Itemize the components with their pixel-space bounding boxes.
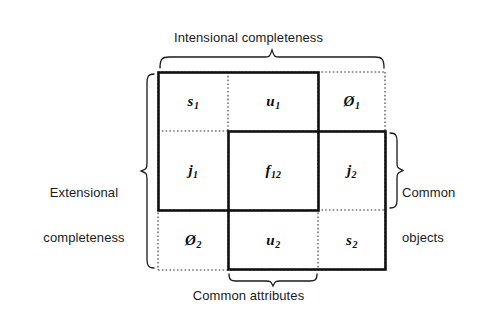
label-extensional-completeness: Extensional completeness [22, 155, 146, 275]
cell-r3c2-sub: 2 [275, 239, 280, 250]
cell-r1c1-sub: 1 [194, 100, 199, 111]
cell-r2c2-sub: 12 [271, 169, 281, 180]
top-brace [160, 50, 384, 68]
bottom-brace [229, 274, 317, 286]
cell-r2c2: f12 [228, 131, 318, 210]
cell-r1c1-base: s [188, 93, 194, 109]
cell-r2c2-base: f [266, 162, 271, 178]
cell-r3c2: u2 [228, 210, 318, 270]
cell-r3c1-sub: 2 [196, 239, 201, 250]
cell-r3c1-base: Ø [185, 232, 196, 248]
diagram-canvas: Intensional completeness Extensional com… [0, 0, 497, 324]
cell-r1c3: Ø1 [318, 72, 385, 131]
cell-r3c3-sub: 2 [352, 239, 357, 250]
cell-r2c3: j2 [318, 131, 385, 210]
cell-r3c2-base: u [266, 232, 274, 248]
label-common-objects: Common objects [402, 155, 497, 275]
cell-r2c1: j1 [158, 131, 228, 210]
cell-r3c1: Ø2 [158, 210, 228, 270]
cell-r1c2: u1 [228, 72, 318, 131]
cell-r2c1-sub: 1 [193, 169, 198, 180]
label-common-objects-line1: Common [402, 185, 497, 200]
label-common-attributes: Common attributes [0, 288, 497, 303]
cell-r1c3-base: Ø [344, 93, 355, 109]
label-extensional-line1: Extensional [22, 185, 146, 200]
cell-r1c2-base: u [266, 93, 274, 109]
label-extensional-line2: completeness [22, 230, 146, 245]
label-common-objects-line2: objects [402, 230, 497, 245]
cell-r1c3-sub: 1 [355, 100, 360, 111]
cell-r2c1-base: j [188, 162, 192, 178]
cell-r2c3-base: j [347, 162, 351, 178]
cell-r2c3-sub: 2 [352, 169, 357, 180]
cell-r3c3: s2 [318, 210, 385, 270]
label-intensional-completeness: Intensional completeness [0, 30, 497, 45]
cell-r1c1: s1 [158, 72, 228, 131]
cell-r1c2-sub: 1 [275, 100, 280, 111]
